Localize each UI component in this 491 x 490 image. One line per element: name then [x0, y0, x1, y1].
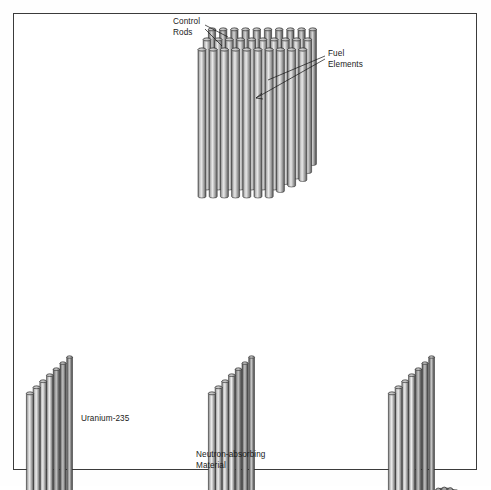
label-fuel-elements: Fuel Elements [328, 49, 363, 70]
label-control-rods: Control Rods [173, 17, 200, 38]
label-neutron-absorbing-material: Neutron-absorbing Material [196, 450, 266, 471]
label-uranium-235: Uranium-235 [81, 414, 129, 425]
rod-group-top [198, 28, 316, 198]
control-rod-assembly [0, 0, 491, 243]
